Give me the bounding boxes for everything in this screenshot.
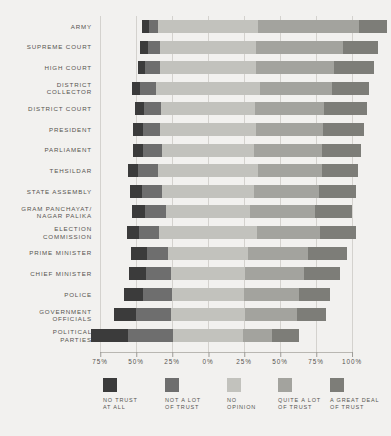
legend-item[interactable]: A GREAT DEALOF TRUST — [330, 378, 391, 411]
bar-segment — [319, 185, 356, 198]
bar-segment — [158, 164, 208, 177]
bar-segment — [244, 288, 299, 301]
bar-segment — [208, 205, 250, 218]
legend-label: NO TRUSTAT ALL — [103, 397, 165, 411]
bar-segment — [138, 164, 158, 177]
bar-segment — [332, 82, 369, 95]
bar-segment — [320, 226, 356, 239]
bar-segment — [146, 267, 170, 280]
bar-segment — [128, 164, 138, 177]
bar-row — [100, 308, 352, 321]
category-label: DISTRICT COURT — [0, 105, 92, 112]
legend-swatch — [330, 378, 344, 392]
bar-row — [100, 20, 352, 33]
bar-segment — [208, 226, 257, 239]
bar-segment — [343, 41, 378, 54]
x-tick-label: 75% — [308, 358, 324, 365]
bar-segment — [208, 329, 243, 342]
bar-row — [100, 329, 352, 342]
bar-segment — [140, 41, 147, 54]
bar-segment — [322, 144, 361, 157]
category-label: PARLIAMENT — [0, 146, 92, 153]
bar-row — [100, 267, 352, 280]
x-tick-mark — [316, 352, 317, 357]
legend-label: A GREAT DEALOF TRUST — [330, 397, 391, 411]
category-label: GRAM PANCHAYAT/NAGAR PALIKA — [0, 205, 92, 220]
bar-segment — [334, 61, 374, 74]
legend-item[interactable]: NOT A LOTOF TRUST — [165, 378, 227, 411]
category-label: SUPREME COURT — [0, 43, 92, 50]
category-label: POLITICALPARTIES — [0, 328, 92, 343]
bar-row — [100, 82, 352, 95]
bar-segment — [91, 329, 128, 342]
x-tick-label: 75% — [92, 358, 108, 365]
bar-segment — [322, 164, 358, 177]
bar-segment — [255, 102, 324, 115]
bar-segment — [166, 205, 208, 218]
x-tick-label: 0% — [202, 358, 213, 365]
bar-segment — [245, 267, 304, 280]
x-tick-label: 50% — [128, 358, 144, 365]
bar-segment — [136, 308, 171, 321]
x-tick-label: 100% — [342, 358, 362, 365]
category-label: POLICE — [0, 291, 92, 298]
category-label: GOVERNMENTOFFICIALS — [0, 308, 92, 323]
bar-segment — [142, 185, 162, 198]
x-tick-label: 25% — [164, 358, 180, 365]
bar-segment — [149, 20, 158, 33]
x-tick-mark — [244, 352, 245, 357]
category-label: ARMY — [0, 23, 92, 30]
bar-segment — [208, 41, 256, 54]
category-label: HIGH COURT — [0, 64, 92, 71]
bar-segment — [308, 247, 347, 260]
bar-segment — [160, 41, 208, 54]
legend-swatch — [227, 378, 241, 392]
bar-segment — [133, 144, 143, 157]
bar-segment — [256, 61, 334, 74]
x-tick-label: 25% — [236, 358, 252, 365]
bar-segment — [208, 123, 256, 136]
bar-segment — [142, 20, 149, 33]
bar-segment — [254, 185, 319, 198]
bar-segment — [144, 102, 161, 115]
x-tick-mark — [172, 352, 173, 357]
bar-segment — [254, 144, 322, 157]
bar-segment — [132, 82, 141, 95]
bar-segment — [256, 123, 324, 136]
legend-item[interactable]: NO TRUSTAT ALL — [103, 378, 165, 411]
bar-segment — [140, 82, 156, 95]
bar-segment — [162, 144, 208, 157]
bar-segment — [129, 267, 146, 280]
bar-segment — [272, 329, 299, 342]
x-tick-mark — [280, 352, 281, 357]
bar-segment — [143, 144, 162, 157]
bar-segment — [173, 329, 208, 342]
bar-segment — [148, 41, 161, 54]
bar-segment — [260, 82, 332, 95]
bar-segment — [208, 185, 254, 198]
bar-segment — [162, 185, 208, 198]
bar-segment — [208, 164, 258, 177]
bar-segment — [145, 61, 159, 74]
bar-segment — [168, 247, 208, 260]
category-label: ELECTIONCOMMISSION — [0, 225, 92, 240]
bar-segment — [323, 123, 363, 136]
bar-segment — [133, 123, 143, 136]
bar-row — [100, 247, 352, 260]
bar-segment — [159, 226, 208, 239]
bar-row — [100, 185, 352, 198]
x-tick-mark — [352, 352, 353, 357]
bar-segment — [143, 288, 172, 301]
plot-area — [100, 16, 352, 352]
bar-segment — [132, 205, 145, 218]
bar-segment — [158, 20, 208, 33]
bar-segment — [160, 61, 208, 74]
bar-segment — [208, 102, 255, 115]
bar-segment — [147, 247, 169, 260]
bar-segment — [208, 20, 258, 33]
bar-segment — [250, 205, 315, 218]
bar-segment — [208, 61, 256, 74]
bar-row — [100, 102, 352, 115]
bar-segment — [128, 329, 173, 342]
